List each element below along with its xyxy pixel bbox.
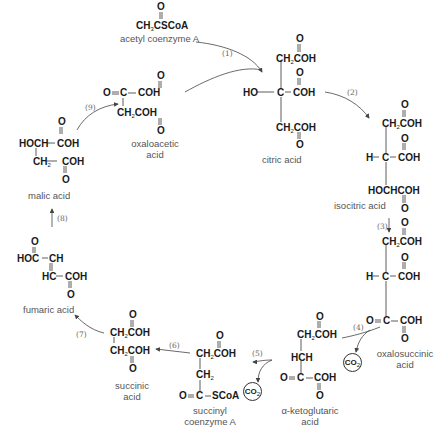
- step-label-3: (3): [377, 222, 388, 231]
- label-isocitric: isocitric acid: [334, 200, 386, 211]
- label-fumaric: fumaric acid: [23, 304, 74, 315]
- step-label-8: (8): [57, 214, 68, 223]
- co2-byproduct-step4: CO2: [343, 353, 362, 372]
- co2-byproduct-step5: CO2: [243, 382, 262, 401]
- step-label-5: (5): [252, 349, 263, 358]
- label-citric: citric acid: [262, 154, 302, 165]
- label-acetyl-coa: acetyl coenzyme A: [120, 33, 199, 44]
- label-malic: malic acid: [28, 190, 70, 201]
- label-succinic: succinicacid: [102, 380, 162, 402]
- label-alpha-ketoglutaric: α-ketoglutaricacid: [270, 405, 350, 427]
- step-label-6: (6): [169, 341, 180, 350]
- step-label-4: (4): [353, 323, 364, 332]
- label-oxaloacetic: oxaloaceticacid: [125, 138, 185, 160]
- step-label-9: (9): [85, 103, 96, 112]
- label-succinyl-coa: succinylcoenzyme A: [175, 405, 245, 427]
- step-label-7: (7): [76, 330, 87, 339]
- label-oxalosuccinic: oxalosuccinicacid: [368, 348, 442, 370]
- step-label-1: (1): [222, 49, 233, 58]
- step-label-2: (2): [347, 88, 358, 97]
- citric-acid-cycle-diagram: O CH3CSCoA acetyl coenzyme A O O C COH C…: [0, 0, 446, 445]
